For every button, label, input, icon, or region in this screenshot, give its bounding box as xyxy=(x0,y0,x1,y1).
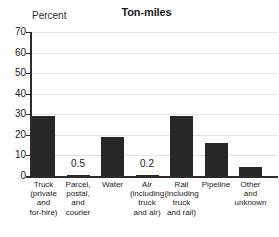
bar xyxy=(32,116,55,176)
y-axis-title: Percent xyxy=(32,10,66,21)
bar xyxy=(101,137,124,176)
x-category-label-line: (including xyxy=(164,189,200,198)
bar xyxy=(67,175,90,177)
x-category-label-line: unknown xyxy=(233,198,269,207)
x-category-label: Water xyxy=(95,180,131,189)
ton-miles-bar-chart: Ton-miles Percent 706050403020100 Truck(… xyxy=(0,0,279,237)
x-category-label-line: truck xyxy=(164,198,200,207)
x-category-label: Rail(includingtruckand rail) xyxy=(164,180,200,217)
x-category-label-line: Parcel, xyxy=(60,180,96,189)
bar xyxy=(205,143,228,176)
x-category-label-line: Truck xyxy=(26,180,62,189)
y-tick-mark-20 xyxy=(26,135,30,136)
x-category-label-line: for-hire) xyxy=(26,208,62,217)
bar-value-label: 0.2 xyxy=(130,158,165,169)
y-tick-mark-0 xyxy=(26,176,30,177)
bar xyxy=(136,175,159,177)
bar-value-label: 0.5 xyxy=(61,158,96,169)
x-category-label-line: and rail) xyxy=(164,208,200,217)
y-tick-mark-40 xyxy=(26,94,30,95)
x-axis-line xyxy=(26,176,278,178)
x-category-label: Truck(privateandfor-hire) xyxy=(26,180,62,217)
x-category-label-line: and xyxy=(60,198,96,207)
y-tick-mark-10 xyxy=(26,155,30,156)
bar xyxy=(170,116,193,176)
y-tick-mark-50 xyxy=(26,73,30,74)
x-category-label-line: Rail xyxy=(164,180,200,189)
y-tick-mark-60 xyxy=(26,53,30,54)
x-category-label-line: courier xyxy=(60,208,96,217)
x-category-label-line: and xyxy=(233,189,269,198)
x-category-label-line: Air xyxy=(129,180,165,189)
x-axis-category-labels: Truck(privateandfor-hire)Parcel,postal,a… xyxy=(26,180,278,237)
x-category-label-line: Other xyxy=(233,180,269,189)
x-category-label: Pipeline xyxy=(198,180,234,189)
x-category-label: Air(includingtruckand air) xyxy=(129,180,165,217)
x-category-label-line: truck xyxy=(129,198,165,207)
bar xyxy=(239,167,262,176)
x-category-label-line: (including xyxy=(129,189,165,198)
x-category-label-line: and xyxy=(26,198,62,207)
bars-layer xyxy=(0,32,279,176)
x-category-label-line: Pipeline xyxy=(198,180,234,189)
x-category-label: Parcel,postal,andcourier xyxy=(60,180,96,217)
x-category-label-line: postal, xyxy=(60,189,96,198)
y-tick-mark-70 xyxy=(26,32,30,33)
x-category-label-line: (private xyxy=(26,189,62,198)
y-tick-mark-30 xyxy=(26,114,30,115)
x-category-label-line: and air) xyxy=(129,208,165,217)
x-category-label-line: Water xyxy=(95,180,131,189)
x-category-label: Otherandunknown xyxy=(233,180,269,208)
